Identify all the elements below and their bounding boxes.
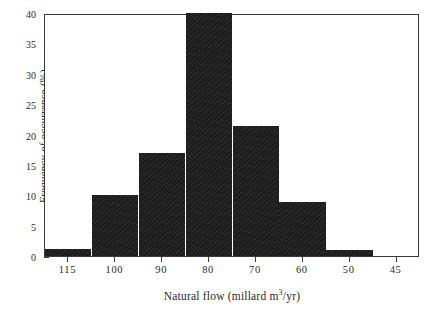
bar <box>139 153 185 256</box>
bar <box>326 250 372 256</box>
y-tick-label: 20 <box>2 130 36 141</box>
x-tick-mark <box>208 257 209 262</box>
x-tick-label: 115 <box>47 264 87 275</box>
x-tick-mark <box>67 257 68 262</box>
x-tick-label: 60 <box>282 264 322 275</box>
plot-area <box>44 14 419 257</box>
x-tick-label: 80 <box>188 264 228 275</box>
x-tick-mark <box>302 257 303 262</box>
bar <box>92 195 138 256</box>
bar <box>279 202 325 256</box>
bar <box>233 126 279 256</box>
bar <box>186 13 232 256</box>
y-tick-label: 15 <box>2 160 36 171</box>
x-axis-title: Natural flow (millard m3/yr) <box>44 290 420 302</box>
figure: Frequency of occurrence (%) Natural flow… <box>0 0 433 316</box>
x-tick-label: 100 <box>94 264 134 275</box>
y-tick-label: 30 <box>2 69 36 80</box>
x-tick-mark <box>114 257 115 262</box>
x-tick-mark <box>349 257 350 262</box>
y-tick-mark <box>44 257 49 258</box>
x-tick-label: 45 <box>376 264 416 275</box>
bar <box>45 249 91 256</box>
x-axis-title-before: Natural flow (millard m <box>164 290 279 302</box>
x-axis-title-after: /yr) <box>283 290 300 302</box>
x-tick-mark <box>161 257 162 262</box>
y-tick-label: 25 <box>2 100 36 111</box>
x-tick-label: 50 <box>329 264 369 275</box>
y-tick-label: 35 <box>2 39 36 50</box>
x-tick-label: 90 <box>141 264 181 275</box>
x-tick-label: 70 <box>235 264 275 275</box>
bar-series <box>45 15 418 256</box>
y-tick-label: 40 <box>2 9 36 20</box>
x-tick-mark <box>255 257 256 262</box>
y-tick-label: 0 <box>2 252 36 263</box>
x-tick-mark <box>396 257 397 262</box>
y-tick-label: 5 <box>2 221 36 232</box>
y-tick-label: 10 <box>2 191 36 202</box>
